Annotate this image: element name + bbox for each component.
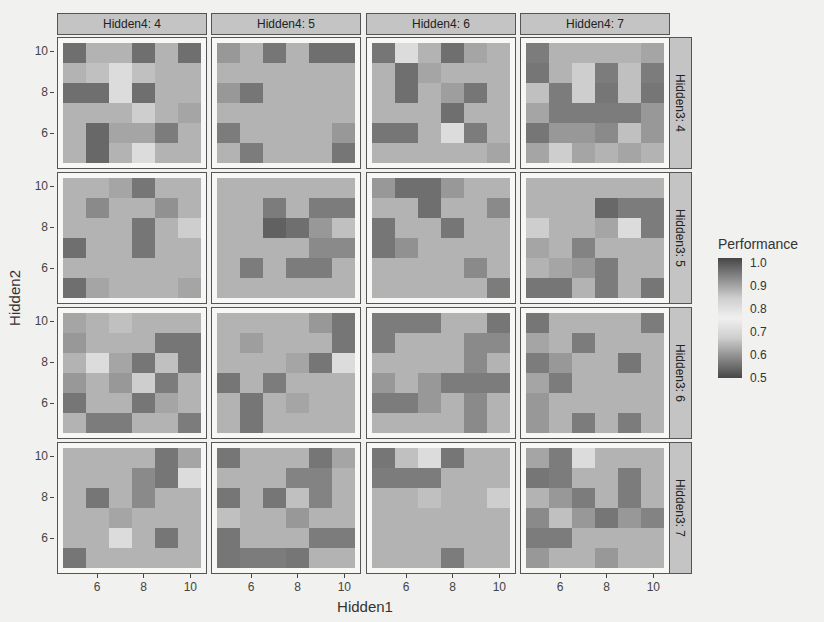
heatmap-cell: [155, 123, 178, 143]
heatmap-cell: [618, 508, 641, 528]
heatmap-cell: [155, 278, 178, 298]
heatmap-cell: [332, 528, 355, 548]
heatmap-cell: [526, 43, 549, 63]
heatmap-cell: [526, 178, 549, 198]
heatmap-cell: [395, 528, 418, 548]
heatmap-cell: [63, 178, 86, 198]
x-tick-label: 8: [595, 574, 619, 594]
heatmap-cell: [332, 548, 355, 568]
heatmap-cell: [595, 43, 618, 63]
heatmap-cell: [595, 353, 618, 373]
heatmap-cell: [263, 413, 286, 433]
heatmap-cell: [332, 83, 355, 103]
heatmap-cell: [240, 218, 263, 238]
heatmap-cell: [464, 63, 487, 83]
heatmap-cell: [332, 278, 355, 298]
heatmap-cell: [109, 528, 132, 548]
heatmap-cell: [309, 198, 332, 218]
heatmap-cell: [86, 143, 109, 163]
x-tick-label: 10: [487, 574, 511, 594]
heatmap-cell: [549, 103, 572, 123]
heatmap-cell: [549, 63, 572, 83]
heatmap-cell: [526, 393, 549, 413]
heatmap-cell: [178, 508, 201, 528]
heatmap-cell: [332, 238, 355, 258]
heatmap-cell: [618, 528, 641, 548]
heatmap-cell: [217, 548, 240, 568]
y-tick-label: 8: [28, 85, 54, 99]
heatmap-cell: [63, 63, 86, 83]
heatmap-cell: [63, 353, 86, 373]
heatmap-cell: [178, 143, 201, 163]
heatmap-cell: [618, 488, 641, 508]
heatmap-cell: [155, 218, 178, 238]
heatmap-cell: [86, 468, 109, 488]
heatmap-panel: [520, 37, 670, 169]
heatmap-cell: [618, 373, 641, 393]
heatmap-cell: [572, 468, 595, 488]
heatmap-cell: [487, 238, 510, 258]
heatmap-panel: [366, 307, 516, 439]
heatmap-cell: [549, 333, 572, 353]
heatmap-cell: [86, 488, 109, 508]
heatmap-cell: [332, 393, 355, 413]
heatmap-cell: [178, 63, 201, 83]
x-tick-label: 8: [286, 574, 310, 594]
heatmap-cell: [332, 218, 355, 238]
heatmap-cell: [217, 353, 240, 373]
heatmap-cell: [332, 313, 355, 333]
x-tick-label: 10: [332, 574, 356, 594]
heatmap-cell: [86, 258, 109, 278]
heatmap-cell: [217, 218, 240, 238]
heatmap-cell: [441, 373, 464, 393]
heatmap-cell: [109, 333, 132, 353]
heatmap-cell: [178, 488, 201, 508]
heatmap-cell: [441, 413, 464, 433]
heatmap-cell: [418, 178, 441, 198]
heatmap-cell: [572, 258, 595, 278]
heatmap-cell: [395, 373, 418, 393]
heatmap-cell: [372, 103, 395, 123]
heatmap-cell: [572, 218, 595, 238]
heatmap-cell: [372, 528, 395, 548]
heatmap-cell: [63, 393, 86, 413]
legend-label-0-5: 0.5: [750, 371, 767, 385]
heatmap-cell: [263, 333, 286, 353]
heatmap-cell: [395, 238, 418, 258]
x-axis-label: Hidden1: [310, 598, 420, 615]
heatmap-cell: [487, 43, 510, 63]
heatmap-cell: [263, 43, 286, 63]
heatmap-cell: [595, 83, 618, 103]
heatmap-cell: [86, 238, 109, 258]
heatmap-cell: [109, 548, 132, 568]
legend-label-1-0: 1.0: [750, 256, 767, 270]
heatmap-cell: [263, 143, 286, 163]
heatmap-cell: [618, 178, 641, 198]
heatmap-cell: [263, 63, 286, 83]
heatmap-cell: [395, 413, 418, 433]
heatmap-cell: [263, 548, 286, 568]
heatmap-cell: [595, 123, 618, 143]
heatmap-cell: [332, 488, 355, 508]
heatmap-cell: [86, 83, 109, 103]
heatmap-cell: [487, 103, 510, 123]
heatmap-cell: [63, 448, 86, 468]
heatmap-cell: [63, 198, 86, 218]
heatmap-cell: [595, 373, 618, 393]
heatmap-cell: [526, 468, 549, 488]
heatmap-cell: [418, 468, 441, 488]
heatmap-cell: [641, 218, 664, 238]
heatmap-cell: [132, 393, 155, 413]
heatmap-cell: [572, 353, 595, 373]
facet-row-strip: Hidden3: 4: [668, 37, 692, 169]
heatmap-cell: [372, 218, 395, 238]
heatmap-cell: [240, 63, 263, 83]
color-legend: Performance 1.0 0.9 0.8 0.7 0.6 0.5: [718, 236, 818, 386]
heatmap-cell: [395, 278, 418, 298]
heatmap-cell: [217, 313, 240, 333]
heatmap-cell: [332, 448, 355, 468]
heatmap-cell: [487, 393, 510, 413]
x-tick-label: 6: [548, 574, 572, 594]
heatmap-cell: [595, 218, 618, 238]
heatmap-cell: [549, 198, 572, 218]
